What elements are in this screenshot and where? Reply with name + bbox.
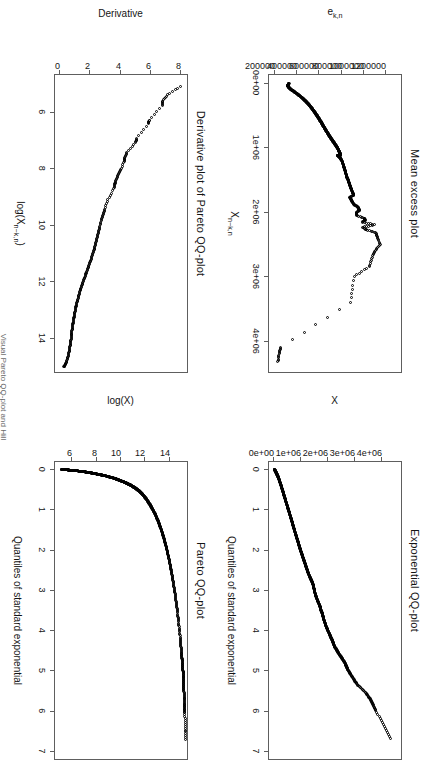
- x-axis-tick-label: 2: [251, 547, 261, 552]
- data-point: [174, 88, 177, 91]
- y-axis-tick-label: 14: [160, 448, 170, 458]
- y-axis-tick-label: 6: [146, 61, 151, 71]
- x-axis-tick: [264, 83, 269, 84]
- panel-title-exponential-qq: Exponential QQ-plot: [409, 387, 421, 774]
- data-point: [363, 268, 366, 271]
- data-point: [314, 323, 317, 326]
- data-point: [338, 308, 341, 311]
- x-axis-tick: [264, 630, 269, 631]
- x-axis-tick-label: 6: [251, 708, 261, 713]
- panel-exponential-qq-plot: Exponential QQ-plot X Quantiles of stand…: [214, 387, 428, 774]
- y-axis-tick-label: 4e+06: [357, 448, 382, 458]
- panel-title-pareto-qq: Pareto QQ-plot: [195, 387, 207, 774]
- data-point: [350, 296, 353, 299]
- axis-label-x-mean-excess: Xn−k,n: [226, 74, 240, 373]
- x-axis-tick: [264, 550, 269, 551]
- data-point: [161, 104, 164, 107]
- data-point: [352, 279, 355, 282]
- x-axis-tick-label: 4e+06: [251, 328, 261, 353]
- x-axis-tick-label: 1: [37, 507, 47, 512]
- data-point: [389, 737, 392, 740]
- data-point: [150, 116, 153, 119]
- axis-label-x-pareto-qq: Quantiles of standard exponential: [12, 461, 23, 760]
- data-layer-pareto-qq: 0123456768101214: [55, 462, 187, 759]
- x-axis-tick-label: 0e+00: [251, 70, 261, 95]
- panel-title-derivative: Derivative plot of Pareto QQ-plot: [195, 0, 207, 387]
- x-axis-tick: [264, 212, 269, 213]
- plot-area-mean-excess: 0e+001e+062e+063e+064e+06200000400000600…: [268, 74, 402, 373]
- x-axis-tick-label: 1e+06: [251, 135, 261, 160]
- data-layer-exponential-qq: 012345670e+001e+062e+063e+064e+06: [269, 462, 401, 759]
- data-point: [351, 284, 354, 287]
- x-axis-tick: [50, 550, 55, 551]
- x-axis-tick: [50, 711, 55, 712]
- x-axis-tick-label: 12: [37, 276, 47, 286]
- x-axis-tick-label: 8: [37, 166, 47, 171]
- data-layer-mean-excess: 0e+001e+062e+063e+064e+06200000400000600…: [269, 75, 401, 372]
- x-axis-tick: [264, 590, 269, 591]
- x-axis-tick-label: 6: [37, 708, 47, 713]
- x-axis-tick-label: 1: [251, 507, 261, 512]
- x-axis-tick-label: 10: [37, 220, 47, 230]
- y-axis-tick-label: 8: [92, 448, 97, 458]
- x-axis-tick-label: 3: [251, 587, 261, 592]
- plot-area-derivative: 6810121402468: [54, 74, 188, 373]
- data-point: [153, 113, 156, 116]
- x-axis-tick: [50, 225, 55, 226]
- y-axis-tick-label: 6: [67, 448, 72, 458]
- data-point: [303, 331, 306, 334]
- panel-pareto-qq-plot: Pareto QQ-plot log(X) Quantiles of stand…: [0, 387, 214, 774]
- rotated-figure-canvas: Mean excess plot ek,n Xn−k,n 0e+001e+062…: [0, 0, 428, 774]
- x-axis-tick: [50, 281, 55, 282]
- x-axis-tick-label: 5: [37, 668, 47, 673]
- x-axis-tick-label: 4: [251, 628, 261, 633]
- data-point: [351, 288, 354, 291]
- x-axis-tick: [50, 168, 55, 169]
- x-axis-tick: [50, 630, 55, 631]
- axis-label-y-pareto-qq: log(X): [54, 393, 188, 407]
- x-axis-tick-label: 2e+06: [251, 199, 261, 224]
- data-point: [353, 275, 356, 278]
- x-axis-tick: [50, 670, 55, 671]
- x-axis-tick: [50, 112, 55, 113]
- y-axis-tick-label: 12: [135, 448, 145, 458]
- x-axis-tick: [50, 751, 55, 752]
- data-point: [155, 110, 158, 113]
- x-axis-tick-label: 2: [37, 547, 47, 552]
- data-point: [140, 131, 143, 134]
- x-axis-tick-label: 5: [251, 668, 261, 673]
- panel-title-mean-excess: Mean excess plot: [409, 0, 421, 387]
- x-axis-tick-label: 0: [251, 467, 261, 472]
- axis-label-x-derivative: log(Xn−k,n): [12, 74, 26, 373]
- plot-area-exponential-qq: 012345670e+001e+062e+063e+064e+06: [268, 461, 402, 760]
- y-axis-tick-label: 2e+06: [303, 448, 328, 458]
- y-axis-tick-label: 4: [116, 61, 121, 71]
- y-axis-tick-label: 10: [111, 448, 121, 458]
- y-axis-tick-label: 2: [85, 61, 90, 71]
- data-point: [350, 292, 353, 295]
- x-axis-tick-label: 3: [37, 587, 47, 592]
- axis-label-y-mean-excess: ek,n: [268, 6, 402, 20]
- data-point: [176, 87, 179, 90]
- x-axis-tick: [264, 341, 269, 342]
- x-axis-tick-label: 4: [37, 628, 47, 633]
- x-axis-tick: [264, 276, 269, 277]
- x-axis-tick-label: 14: [37, 333, 47, 343]
- data-point: [158, 107, 161, 110]
- data-point: [184, 738, 187, 741]
- axis-label-x-exponential-qq: Quantiles of standard exponential: [226, 461, 237, 760]
- x-axis-tick: [50, 590, 55, 591]
- x-axis-tick: [50, 469, 55, 470]
- x-axis-tick: [264, 670, 269, 671]
- x-axis-tick: [264, 751, 269, 752]
- data-point: [326, 316, 329, 319]
- panel-derivative-plot: Derivative plot of Pareto QQ-plot Deriva…: [0, 0, 214, 387]
- y-axis-tick-label: 8: [176, 61, 181, 71]
- data-point: [368, 265, 371, 268]
- x-axis-tick: [264, 509, 269, 510]
- figure-caption-fragment: Visual Pareto QQ-plot and Hill: [0, 0, 8, 774]
- data-point: [179, 85, 182, 88]
- panel-mean-excess-plot: Mean excess plot ek,n Xn−k,n 0e+001e+062…: [214, 0, 428, 387]
- y-axis-tick-label: 3e+06: [330, 448, 355, 458]
- x-axis-tick: [264, 469, 269, 470]
